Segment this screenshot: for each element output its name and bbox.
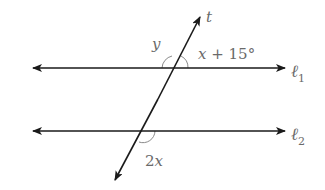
line-l2-base: ℓ	[291, 124, 298, 144]
angle-x-plus-15-label: x + 15°	[198, 45, 255, 63]
geometry-diagram: t y x + 15° ℓ1 ℓ2 2x	[0, 0, 325, 190]
line-l2-sub: 2	[298, 135, 305, 148]
angle-2x-var: x	[155, 152, 164, 170]
angle-2x-arc	[139, 131, 155, 143]
transversal-t-up	[158, 17, 200, 99]
angle-y-arc	[162, 56, 172, 68]
angle-2x-num: 2	[145, 152, 155, 170]
angle-2x-label: 2x	[145, 152, 164, 170]
angle-x-plus-15-arc	[181, 56, 188, 68]
line-l1-base: ℓ	[291, 61, 298, 81]
line-l1-label: ℓ1	[291, 61, 305, 85]
line-l1-sub: 1	[298, 72, 305, 85]
transversal-label: t	[206, 8, 213, 26]
angle-x-rest: + 15°	[206, 45, 255, 63]
angle-y-label: y	[151, 35, 161, 53]
line-l2-label: ℓ2	[291, 124, 305, 148]
